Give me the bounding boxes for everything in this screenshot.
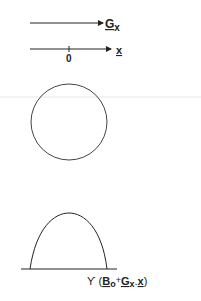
projection-profile	[30, 213, 107, 269]
x-axis-label: x	[116, 44, 123, 56]
signal-label: ϒ (Bo+Gx.x)	[87, 275, 147, 289]
gradient-label: Gx	[105, 17, 120, 33]
origin-label: 0	[66, 53, 72, 64]
sample-circle	[31, 84, 107, 160]
mri-gradient-diagram: Gx 0 x ϒ (Bo+Gx.x)	[0, 0, 201, 301]
